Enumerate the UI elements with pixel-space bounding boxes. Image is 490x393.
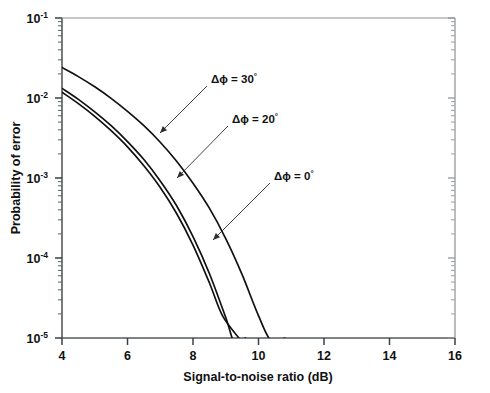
- curve-dphi-0: [62, 92, 239, 338]
- curve-dphi-20: [62, 88, 245, 346]
- y-tick-labels: 10-1 10-2 10-3 10-4 10-5: [27, 10, 49, 346]
- data-curves: [62, 68, 285, 347]
- annotation-dphi-30: Δϕ = 30°: [211, 72, 257, 85]
- figure-container: 10-1 10-2 10-3 10-4 10-5 46810121416 Sig…: [0, 0, 490, 393]
- y-tick-label-1e-3: 10-3: [27, 170, 49, 186]
- x-tick-label: 10: [252, 349, 266, 363]
- x-tick-label: 4: [59, 349, 66, 363]
- x-major-ticks: [62, 338, 455, 345]
- annotation-dphi-20-leader: [177, 126, 228, 178]
- annotation-dphi-0-leader: [213, 183, 270, 240]
- y-tick-label-1e-2: 10-2: [27, 90, 49, 106]
- axis-lines: [62, 18, 455, 338]
- x-tick-label: 14: [383, 349, 397, 363]
- y-tick-label-1e-4: 10-4: [27, 250, 49, 266]
- y-axis-title: Probability of error: [9, 122, 23, 235]
- annotation-dphi-30-leader: [160, 86, 207, 133]
- curve-dphi-30: [62, 68, 285, 343]
- x-tick-labels: 46810121416: [59, 349, 462, 363]
- annotation-dphi-0: Δϕ = 0°: [274, 169, 314, 182]
- x-axis-title: Signal-to-noise ratio (dB): [183, 370, 332, 384]
- y-tick-label-1e-5: 10-5: [27, 330, 49, 346]
- annotation-dphi-20: Δϕ = 20°: [232, 112, 278, 125]
- y-tick-label-1e-1: 10-1: [27, 10, 49, 26]
- x-tick-label: 8: [190, 349, 197, 363]
- y-right-ticks: [448, 18, 455, 338]
- x-tick-label: 12: [317, 349, 331, 363]
- probability-of-error-chart: 10-1 10-2 10-3 10-4 10-5 46810121416 Sig…: [0, 0, 490, 393]
- x-tick-label: 16: [448, 349, 462, 363]
- x-tick-label: 6: [124, 349, 131, 363]
